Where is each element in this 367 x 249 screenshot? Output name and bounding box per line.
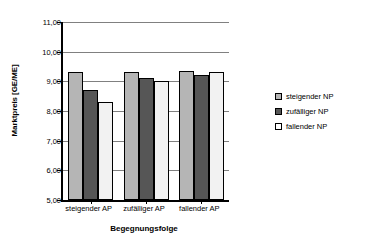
plot-area [61, 22, 229, 202]
y-axis-tick-label: 5,00 [27, 196, 61, 205]
bar [154, 81, 169, 200]
bar [68, 72, 83, 200]
bar-group [124, 22, 169, 200]
legend-item-label: zufälliger NP [286, 107, 329, 116]
legend-item: zufälliger NP [275, 104, 365, 119]
chart-legend: steigender NPzufälliger NPfallender NP [275, 89, 365, 134]
legend-item-label: fallender NP [286, 122, 327, 131]
x-axis-title: Begegnungsfolge [61, 224, 227, 233]
bar [83, 90, 98, 200]
y-axis: 5,006,007,008,009,0010,0011,00 [0, 22, 61, 200]
legend-item: fallender NP [275, 119, 365, 134]
x-axis-tick-label: zufälliger AP [123, 204, 165, 213]
bar-group [179, 22, 224, 200]
bar-chart-figure: Marktpreis [GE/ME] 5,006,007,008,009,001… [0, 0, 367, 249]
legend-item-label: steigender NP [286, 92, 334, 101]
bar [194, 75, 209, 200]
y-axis-tick-label: 11,00 [27, 18, 61, 27]
bar [98, 102, 113, 200]
legend-swatch-icon [275, 123, 282, 130]
legend-item: steigender NP [275, 89, 365, 104]
bar [179, 71, 194, 200]
y-axis-tick-label: 10,00 [27, 47, 61, 56]
x-axis-tick-label: steigender AP [65, 204, 112, 213]
y-axis-tick-label: 8,00 [27, 107, 61, 116]
bar [139, 78, 154, 200]
legend-swatch-icon [275, 93, 282, 100]
legend-swatch-icon [275, 108, 282, 115]
bar-group [68, 22, 113, 200]
x-axis-tick-label: fallender AP [179, 204, 219, 213]
bar [209, 72, 224, 200]
y-axis-tick-label: 6,00 [27, 166, 61, 175]
y-axis-tick-label: 7,00 [27, 136, 61, 145]
y-axis-tick-label: 9,00 [27, 77, 61, 86]
bar [124, 72, 139, 200]
